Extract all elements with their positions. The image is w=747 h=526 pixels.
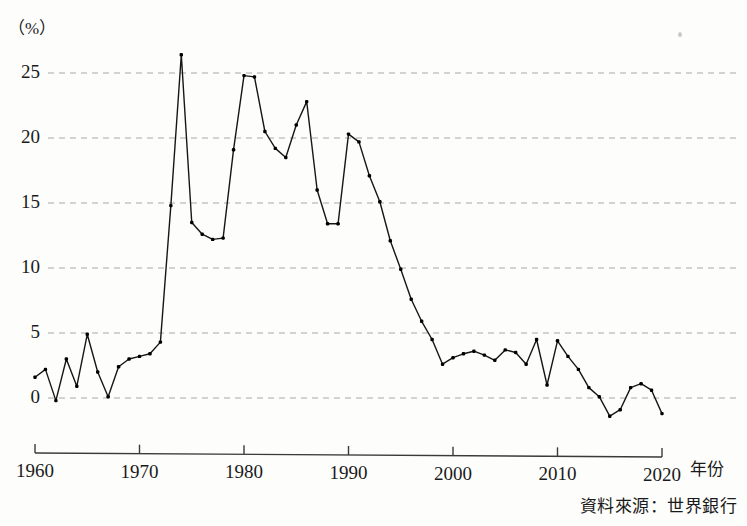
data-point-marker	[378, 200, 381, 203]
data-point-marker	[159, 340, 162, 343]
x-tick-label: 2020	[627, 465, 697, 484]
data-point-marker	[232, 148, 235, 151]
data-point-marker	[106, 395, 109, 398]
data-point-marker	[535, 338, 538, 341]
data-point-marker	[315, 188, 318, 191]
data-point-marker	[660, 412, 663, 415]
data-point-marker	[211, 238, 214, 241]
data-point-marker	[493, 359, 496, 362]
data-point-marker	[545, 383, 548, 386]
data-point-marker	[357, 140, 360, 143]
data-point-marker	[336, 222, 339, 225]
x-tick-label: 1980	[209, 462, 279, 481]
source-note: 資料來源：世界銀行	[580, 492, 738, 517]
data-point-marker	[75, 385, 78, 388]
data-point-marker	[180, 53, 183, 56]
series-line	[35, 55, 662, 416]
data-point-marker	[169, 204, 172, 207]
data-point-marker	[410, 298, 413, 301]
data-point-marker	[295, 123, 298, 126]
data-point-marker	[619, 408, 622, 411]
data-point-marker	[138, 355, 141, 358]
data-point-marker	[96, 370, 99, 373]
x-tick-label: 1960	[0, 461, 70, 480]
data-marker-group	[33, 53, 663, 418]
y-tick-label: 10	[0, 257, 40, 276]
data-point-marker	[190, 221, 193, 224]
data-point-marker	[44, 368, 47, 371]
data-point-marker	[441, 363, 444, 366]
data-point-marker	[504, 348, 507, 351]
x-tick-label: 2000	[418, 464, 488, 483]
data-point-marker	[263, 130, 266, 133]
data-point-marker	[86, 333, 89, 336]
data-point-marker	[577, 368, 580, 371]
y-tick-label: 5	[0, 322, 40, 341]
data-point-marker	[368, 174, 371, 177]
y-tick-label: 25	[0, 62, 40, 81]
data-point-marker	[305, 100, 308, 103]
data-point-marker	[430, 338, 433, 341]
data-point-marker	[650, 389, 653, 392]
data-point-marker	[483, 353, 486, 356]
data-point-marker	[284, 156, 287, 159]
x-axis-title: 年份	[690, 455, 724, 480]
data-point-marker	[148, 352, 151, 355]
data-point-marker	[253, 75, 256, 78]
data-point-marker	[598, 395, 601, 398]
y-tick-label: 20	[0, 127, 40, 146]
data-point-marker	[65, 357, 68, 360]
data-point-marker	[201, 233, 204, 236]
data-point-marker	[451, 356, 454, 359]
data-point-marker	[556, 339, 559, 342]
data-point-marker	[514, 351, 517, 354]
x-axis-group	[35, 444, 662, 457]
data-point-marker	[399, 268, 402, 271]
data-point-marker	[326, 222, 329, 225]
chart-page: （%） 0510152025 1960197019801990200020102…	[0, 0, 747, 526]
data-point-marker	[629, 386, 632, 389]
y-tick-label: 15	[0, 192, 40, 211]
data-point-marker	[347, 132, 350, 135]
x-tick-label: 1990	[314, 463, 384, 482]
data-point-marker	[33, 376, 36, 379]
x-tick-label: 1970	[105, 462, 175, 481]
data-point-marker	[472, 350, 475, 353]
data-point-marker	[524, 363, 527, 366]
data-point-marker	[117, 365, 120, 368]
y-tick-label: 0	[0, 387, 40, 406]
data-point-marker	[608, 415, 611, 418]
data-point-marker	[127, 357, 130, 360]
data-point-marker	[389, 239, 392, 242]
data-point-marker	[221, 236, 224, 239]
data-point-marker	[54, 399, 57, 402]
data-point-marker	[274, 147, 277, 150]
data-point-marker	[566, 355, 569, 358]
x-tick-label: 2010	[523, 464, 593, 483]
data-series-group	[35, 55, 662, 416]
data-point-marker	[639, 382, 642, 385]
data-point-marker	[462, 352, 465, 355]
data-point-marker	[242, 74, 245, 77]
line-chart-plot	[0, 0, 747, 526]
data-point-marker	[420, 320, 423, 323]
data-point-marker	[587, 386, 590, 389]
gridline-group	[48, 73, 741, 398]
